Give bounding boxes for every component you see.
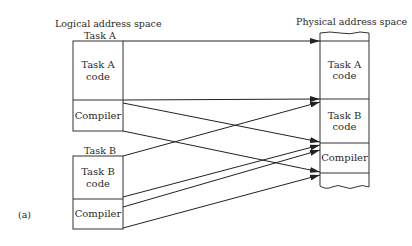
task-b-title: Task B: [84, 146, 116, 156]
map-arrow-compA-top: [123, 103, 320, 142]
physical-compiler-cell: Compiler: [320, 143, 369, 173]
physical-task-b-cell: Task B code: [320, 99, 369, 143]
task-a-code-cell: Task A code: [73, 41, 123, 100]
map-arrow-compB-top: [123, 150, 320, 207]
physical-heading: Physical address space: [296, 17, 407, 27]
task-b-code-cell: Task B code: [73, 156, 123, 199]
map-arrow-taskB-top: [123, 102, 320, 156]
figure-caption: (a): [18, 210, 31, 220]
task-a-compiler-cell: Compiler: [73, 100, 123, 131]
logical-heading: Logical address space: [55, 19, 162, 29]
map-arrow-compB-bottom: [123, 175, 320, 228]
map-arrow-compA-bottom: [123, 131, 320, 172]
map-arrow-taskB-bottom: [123, 145, 320, 197]
task-a-title: Task A: [84, 31, 116, 41]
physical-task-a-cell: Task A code: [320, 41, 369, 99]
map-arrow-taskA-bottom: [123, 99, 320, 100]
task-b-compiler-cell: Compiler: [73, 199, 123, 229]
